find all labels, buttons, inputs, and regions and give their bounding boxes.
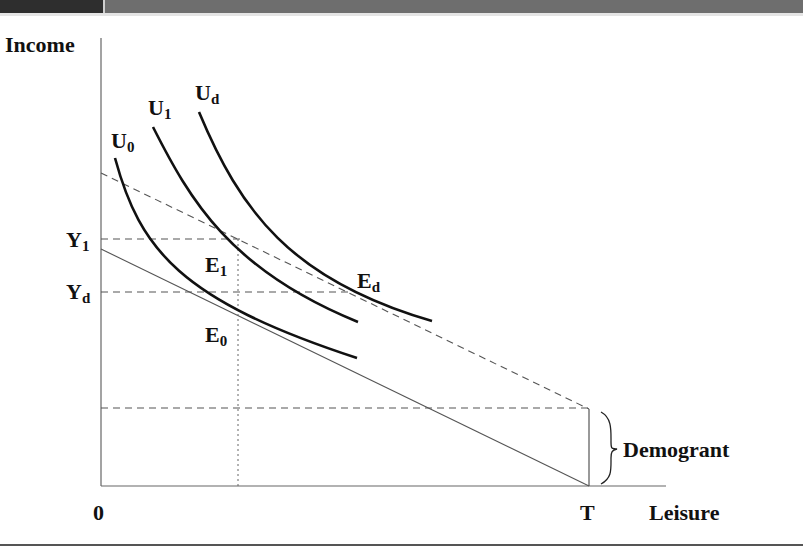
ud-label: Ud (195, 80, 220, 107)
t-label: T (580, 500, 595, 525)
budget-line-original (101, 249, 589, 486)
origin-label: 0 (93, 500, 104, 525)
y1-label: Y1 (66, 227, 89, 254)
demogrant-label: Demogrant (623, 437, 730, 462)
u0-label: U0 (111, 128, 134, 155)
x-axis-label: Leisure (649, 500, 720, 525)
demogrant-brace (601, 412, 617, 484)
u1-label: U1 (148, 95, 171, 122)
indifference-curve-u0 (115, 158, 357, 358)
bottom-rule (0, 544, 803, 546)
budget-line-with-demogrant (101, 173, 589, 409)
indifference-curve-ud (199, 112, 432, 321)
y-axis-label: Income (5, 32, 75, 57)
e1-label: E1 (205, 252, 227, 279)
e0-label: E0 (205, 322, 227, 349)
ed-label: Ed (357, 268, 381, 295)
indifference-curve-u1 (153, 127, 358, 322)
yd-label: Yd (66, 279, 91, 306)
income-leisure-diagram: Income Leisure 0 T Demogrant Y1 Yd U0 U1… (0, 0, 803, 555)
